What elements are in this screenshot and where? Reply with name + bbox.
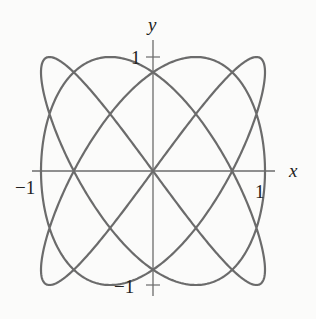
y-axis-label: y — [146, 14, 157, 35]
x-axis-label: x — [288, 160, 298, 181]
y-tick-label-1: 1 — [131, 47, 141, 68]
lissajous-plot: y x 1 −1 −1 1 — [0, 0, 316, 319]
y-tick-label-neg1: −1 — [114, 276, 134, 297]
x-tick-label-1: 1 — [255, 181, 265, 202]
x-tick-label-neg1: −1 — [15, 177, 35, 198]
